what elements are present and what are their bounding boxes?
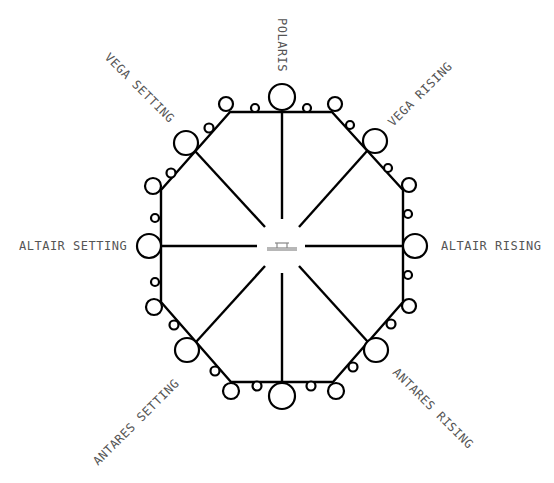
seat-small [211,367,220,376]
seat-corner [219,97,233,111]
seat-small [167,169,176,178]
seat-corner [402,178,416,192]
label-altair-rising: ALTAIR RISING [441,239,541,253]
seat-large-north [269,84,295,110]
seat-small [384,164,392,172]
seat-small [346,121,354,129]
seat-small [170,321,179,330]
seat-small [404,271,412,279]
seat-large-northwest [174,131,198,155]
faded-caption-strip [18,472,538,478]
seat-small [303,104,311,112]
seat-large-southwest [175,338,199,362]
seat-small [151,214,159,222]
star-octagon-diagram: POLARIS VEGA SETTING VEGA RISING ALTAIR … [0,0,554,483]
label-polaris: POLARIS [275,18,289,72]
spoke-northwest [195,151,265,227]
seat-corner [328,97,342,111]
table-icon [267,243,297,250]
seat-corner [402,299,416,313]
seat-small [387,320,396,329]
seat-large-southeast [364,338,388,362]
seat-small [253,382,262,391]
label-vega-setting: VEGA SETTING [102,50,177,125]
seat-small [349,363,358,372]
label-antares-rising: ANTARES RISING [390,365,476,451]
seat-large-south [269,383,295,409]
label-antares-setting: ANTARES SETTING [90,376,182,468]
seat-large-west [137,234,161,258]
seat-corner [145,178,161,194]
seat-small [151,278,159,286]
seat-corner [328,383,344,399]
seat-corner [223,383,239,399]
label-altair-setting: ALTAIR SETTING [19,239,127,253]
label-vega-rising: VEGA RISING [385,59,455,129]
spoke-northeast [299,151,367,227]
seat-small [205,124,214,133]
seat-corner [146,299,162,315]
seat-small [307,382,316,391]
seat-small [404,210,412,218]
spoke-southwest [196,266,265,342]
seat-large-northeast [363,129,387,153]
spoke-southeast [299,266,368,342]
seat-small [251,104,259,112]
seat-large-east [403,234,427,258]
